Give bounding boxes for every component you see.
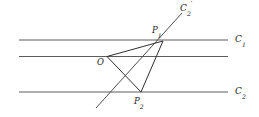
label-o: O	[97, 58, 104, 67]
geometric-diagram: C1 C2 C2′ O P1 P2	[0, 0, 259, 117]
label-c1-base: C	[235, 34, 242, 44]
segment-o-p2	[107, 57, 141, 93]
label-p2: P2	[134, 97, 144, 106]
label-p1-base: P	[152, 25, 158, 35]
label-p1: P1	[152, 26, 162, 35]
label-c2-prime-base: C	[180, 3, 187, 13]
diagram-canvas	[0, 0, 259, 117]
label-c1-subscript: 1	[242, 41, 246, 48]
label-p2-subscript: 2	[140, 103, 144, 110]
segment-o-p1	[107, 41, 163, 57]
label-c1: C1	[235, 35, 246, 44]
segment-p1-p2	[141, 41, 163, 92]
label-c2-subscript: 2	[242, 93, 246, 100]
label-c2-prime-subscript: 2	[187, 10, 191, 17]
label-p2-base: P	[134, 96, 140, 106]
label-c2-base: C	[235, 86, 242, 96]
label-c2-prime: C2′	[180, 4, 192, 13]
ray-c2-prime	[96, 13, 182, 108]
label-p1-subscript: 1	[158, 32, 162, 39]
label-o-base: O	[97, 57, 104, 67]
label-c2: C2	[235, 87, 246, 96]
